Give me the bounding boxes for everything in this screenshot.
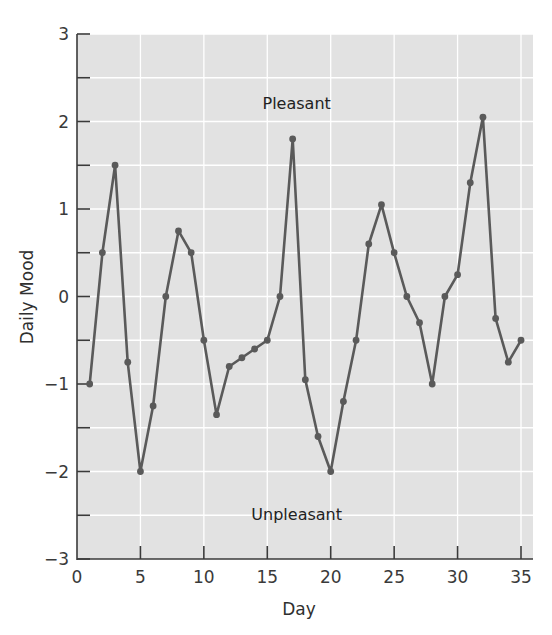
y-tick-label: −1 [44, 374, 69, 394]
x-tick-label: 5 [135, 567, 146, 587]
data-point-marker [378, 201, 385, 208]
data-point-marker [251, 346, 258, 353]
data-point-marker [226, 363, 233, 370]
y-tick-label: 3 [58, 24, 69, 44]
data-point-marker [480, 114, 487, 121]
x-tick-label: 10 [193, 567, 215, 587]
data-point-marker [302, 376, 309, 383]
x-axis-label: Day [282, 599, 316, 619]
data-point-marker [188, 249, 195, 256]
data-point-marker [467, 179, 474, 186]
data-point-marker [518, 337, 525, 344]
annotation-pleasant: Pleasant [263, 94, 331, 113]
data-point-marker [112, 162, 119, 169]
data-point-marker [289, 136, 296, 143]
y-tick-label: −3 [44, 549, 69, 569]
data-point-marker [403, 293, 410, 300]
data-point-marker [505, 359, 512, 366]
data-point-marker [124, 359, 131, 366]
data-point-marker [137, 468, 144, 475]
annotation-unpleasant: Unpleasant [251, 505, 342, 524]
data-point-marker [239, 354, 246, 361]
data-point-marker [429, 381, 436, 388]
x-tick-label: 25 [383, 567, 405, 587]
y-tick-label: 0 [58, 287, 69, 307]
data-point-marker [340, 398, 347, 405]
data-point-marker [353, 337, 360, 344]
data-point-marker [264, 337, 271, 344]
x-tick-label: 15 [256, 567, 278, 587]
data-point-marker [200, 337, 207, 344]
data-point-marker [175, 227, 182, 234]
data-point-marker [213, 411, 220, 418]
data-point-marker [454, 271, 461, 278]
data-point-marker [441, 293, 448, 300]
x-tick-label: 20 [320, 567, 342, 587]
data-point-marker [327, 468, 334, 475]
x-tick-label: 35 [510, 567, 532, 587]
data-point-marker [277, 293, 284, 300]
y-tick-label: −2 [44, 462, 69, 482]
y-tick-label: 1 [58, 199, 69, 219]
data-point-marker [365, 241, 372, 248]
x-tick-label: 30 [447, 567, 469, 587]
data-point-marker [315, 433, 322, 440]
data-point-marker [162, 293, 169, 300]
data-point-marker [86, 381, 93, 388]
data-point-marker [99, 249, 106, 256]
data-point-marker [150, 402, 157, 409]
x-tick-label: 0 [72, 567, 83, 587]
data-point-marker [416, 319, 423, 326]
y-tick-label: 2 [58, 112, 69, 132]
mood-line-chart: −3−2−10123 05101520253035 PleasantUnplea… [0, 0, 552, 635]
data-point-marker [492, 315, 499, 322]
y-axis-label: Daily Mood [17, 250, 37, 345]
data-point-marker [391, 249, 398, 256]
